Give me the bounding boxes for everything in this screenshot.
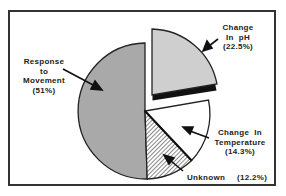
- label-text: Temperature: [206, 138, 274, 148]
- label-percent: (51%): [14, 86, 74, 96]
- slice-change-in-ph: [152, 29, 217, 95]
- label-text: Change In: [206, 128, 274, 138]
- label-text: In pH: [214, 33, 262, 43]
- label-text: Movement: [14, 76, 74, 86]
- label-percent: (22.5%): [214, 42, 262, 52]
- label-change-in-ph: Change In pH (22.5%): [214, 23, 262, 52]
- label-percent: (12.2%): [237, 173, 267, 182]
- label-text: Unknown: [187, 173, 225, 182]
- label-text: to: [14, 67, 74, 77]
- label-change-in-temperature: Change In Temperature (14.3%): [206, 128, 274, 157]
- label-unknown: Unknown(12.2%): [187, 173, 277, 183]
- slice-response-to-movement: [78, 43, 147, 179]
- label-text: Change: [214, 23, 262, 33]
- label-response-to-movement: Response to Movement (51%): [14, 57, 74, 95]
- label-percent: (14.3%): [206, 147, 274, 157]
- arrowhead-ph: [203, 41, 212, 51]
- label-text: Response: [14, 57, 74, 67]
